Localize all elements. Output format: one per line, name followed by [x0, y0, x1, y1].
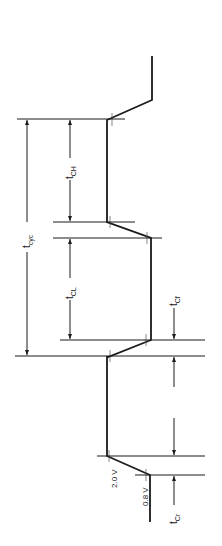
voltage-high-label: 2.0 V: [110, 469, 119, 488]
tcf-label: tCf: [168, 296, 181, 306]
tcl-dimension: tCL: [64, 239, 77, 339]
voltage-low-label: 0.8 V: [141, 487, 150, 506]
tcf-dimension: tCf: [168, 296, 181, 387]
clock-waveform: [107, 56, 152, 522]
tcyc-label: tcyc: [21, 234, 35, 248]
tch-label: tCH: [64, 166, 77, 179]
tcr-label: tCr: [168, 513, 181, 524]
transition-ticks: [109, 113, 147, 481]
clock-timing-diagram: tcyc tCH tCL tCf tCr 2.0 V 0.8: [0, 0, 222, 546]
tcyc-dimension: tcyc: [21, 120, 35, 355]
tcl-label: tCL: [64, 287, 77, 299]
tch-dimension: tCH: [64, 120, 77, 221]
tcr-dimension: tCr: [168, 476, 181, 524]
